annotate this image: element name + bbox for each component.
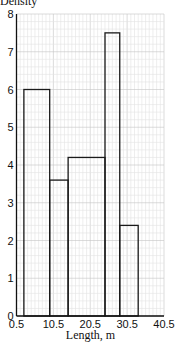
y-tick-label: 8	[7, 8, 13, 20]
x-axis-label: Length, m	[0, 328, 181, 343]
histogram-chart: 0123456780.510.520.530.540.5	[0, 0, 181, 348]
y-tick-label: 7	[7, 46, 13, 58]
y-tick-label: 5	[7, 121, 13, 133]
y-tick-label: 2	[7, 235, 13, 247]
y-tick-label: 1	[7, 272, 13, 284]
y-tick-label: 4	[7, 159, 13, 171]
y-tick-label: 3	[7, 197, 13, 209]
y-tick-label: 6	[7, 84, 13, 96]
